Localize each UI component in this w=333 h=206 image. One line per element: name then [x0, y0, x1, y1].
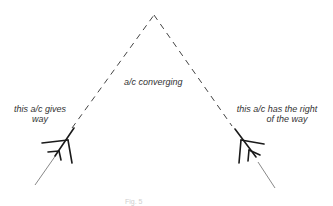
- gives-way-label: this a/c gives way: [10, 104, 70, 124]
- gives-way-label-line2: way: [10, 114, 70, 124]
- right-of-way-label-line2: of the way: [232, 114, 322, 124]
- diagram-graphics: [0, 0, 333, 206]
- left-track-line: [35, 155, 56, 185]
- converging-label: a/c converging: [124, 77, 183, 87]
- right-track-line: [258, 162, 275, 188]
- right-converging-path: [154, 15, 232, 126]
- diagram-canvas: a/c converging this a/c gives way this a…: [0, 0, 333, 206]
- figure-caption: Fig. 5: [125, 198, 143, 205]
- gives-way-label-line1: this a/c gives: [10, 104, 70, 114]
- left-converging-path: [72, 15, 154, 128]
- left-aircraft-icon: [42, 128, 74, 163]
- right-aircraft-icon: [235, 129, 264, 163]
- right-of-way-label-line1: this a/c has the right: [232, 104, 322, 114]
- right-of-way-label: this a/c has the right of the way: [232, 104, 322, 124]
